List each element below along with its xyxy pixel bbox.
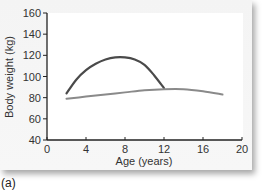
dark-curve-line — [67, 57, 165, 93]
y-tick-label: 100 — [23, 71, 41, 83]
light-curve-line — [67, 89, 223, 99]
y-tick-label: 60 — [29, 113, 41, 125]
y-tick-label: 80 — [29, 92, 41, 104]
series-lines — [67, 57, 223, 99]
x-axis-label: Age (years) — [116, 155, 173, 167]
y-tick-label: 160 — [23, 7, 41, 19]
x-tick-label: 0 — [44, 143, 50, 155]
line-chart: 406080100120140160 048121620 Age (years)… — [0, 0, 262, 192]
y-tick-label: 40 — [29, 134, 41, 146]
x-tick-label: 8 — [122, 143, 128, 155]
x-tick-label: 20 — [236, 143, 248, 155]
y-axis-ticks: 406080100120140160 — [23, 7, 47, 146]
y-tick-label: 140 — [23, 28, 41, 40]
x-tick-label: 4 — [83, 143, 89, 155]
y-tick-label: 120 — [23, 49, 41, 61]
panel-label: (a) — [1, 176, 16, 190]
y-axis-label: Body weight (kg) — [3, 36, 15, 118]
x-tick-label: 12 — [158, 143, 170, 155]
x-tick-label: 16 — [197, 143, 209, 155]
